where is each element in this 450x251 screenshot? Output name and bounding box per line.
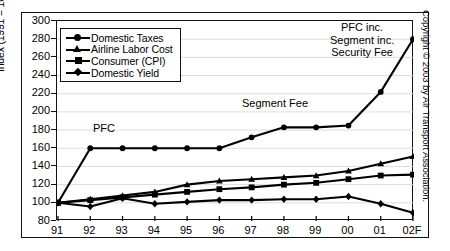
legend-item-label: Consumer (CPI) — [91, 55, 165, 67]
y-axis-title: Index (1991 = 100) — [0, 0, 6, 72]
legend-item-0: Domestic Taxes — [65, 32, 173, 44]
y-tick-80 — [51, 220, 56, 221]
annotation-segment-fee: Segment Fee — [242, 97, 308, 110]
copyright-text: Copyright © 2003 by Air Transport Associ… — [421, 10, 432, 210]
annotation-pfc-inc-line2: Segment inc. — [330, 34, 394, 47]
legend-item-2: Consumer (CPI) — [65, 55, 173, 67]
x-tick-label-01: 01 — [365, 225, 395, 236]
triangle-marker — [65, 44, 91, 55]
y-tick-label-200: 200 — [20, 105, 50, 116]
y-tick-label-80: 80 — [20, 215, 50, 226]
y-tick-label-260: 260 — [20, 51, 50, 62]
x-tick-label-00: 00 — [332, 225, 362, 236]
chart-figure: Index (1991 = 100) 801001201401601802002… — [0, 0, 450, 251]
legend-item-label: Domestic Yield — [91, 67, 159, 79]
y-tick-label-280: 280 — [20, 33, 50, 44]
y-tick-label-140: 140 — [20, 160, 50, 171]
y-tick-label-100: 100 — [20, 196, 50, 207]
y-tick-label-180: 180 — [20, 124, 50, 135]
y-tick-label-220: 220 — [20, 87, 50, 98]
legend-item-label: Airline Labor Cost — [91, 43, 173, 55]
x-tick-label-98: 98 — [268, 225, 298, 236]
x-tick-label-99: 99 — [300, 225, 330, 236]
x-tick-label-97: 97 — [236, 225, 266, 236]
x-tick-label-96: 96 — [203, 225, 233, 236]
x-tick-label-93: 93 — [107, 225, 137, 236]
circle-marker — [65, 32, 91, 43]
legend-item-label: Domestic Taxes — [91, 32, 164, 44]
annotation-pfc-inc-line3: Security Fee — [330, 46, 394, 59]
y-tick-label-240: 240 — [20, 69, 50, 80]
x-tick-label-92: 92 — [74, 225, 104, 236]
x-tick-label-95: 95 — [171, 225, 201, 236]
diamond-marker — [65, 67, 91, 78]
x-tick-label-94: 94 — [139, 225, 169, 236]
x-tick-label-02F: 02F — [397, 225, 427, 236]
annotation-pfc-inc-line1: PFC inc. — [330, 21, 394, 34]
annotation-pfc: PFC — [93, 122, 115, 135]
legend-item-3: Domestic Yield — [65, 67, 173, 79]
y-tick-label-120: 120 — [20, 178, 50, 189]
y-tick-label-300: 300 — [20, 15, 50, 26]
y-tick-label-160: 160 — [20, 142, 50, 153]
chart-legend: Domestic TaxesAirline Labor CostConsumer… — [60, 28, 181, 82]
legend-item-1: Airline Labor Cost — [65, 44, 173, 56]
x-tick-label-91: 91 — [42, 225, 72, 236]
square-marker — [65, 55, 91, 66]
annotation-pfc-inc: PFC inc. Segment inc. Security Fee — [330, 21, 394, 59]
